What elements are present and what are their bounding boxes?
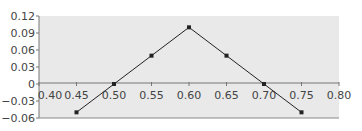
data-point-marker bbox=[75, 110, 79, 114]
data-point-marker bbox=[300, 110, 304, 114]
line-chart: 0.120.090.060.030−0.03−0.06 0.400.450.50… bbox=[0, 0, 362, 131]
x-tick-label: 0.75 bbox=[289, 89, 314, 102]
y-tick-label: −0.06 bbox=[1, 112, 35, 125]
y-tick-label: −0.03 bbox=[1, 95, 35, 108]
x-tick-label: 0.55 bbox=[139, 89, 164, 102]
x-tick-label: 0.45 bbox=[64, 89, 89, 102]
data-point-marker bbox=[262, 82, 266, 86]
y-axis-ticks: 0.120.090.060.030−0.03−0.06 bbox=[1, 10, 39, 125]
y-tick-label: 0.09 bbox=[11, 27, 36, 40]
y-tick-label: 0.12 bbox=[11, 10, 36, 23]
data-point-marker bbox=[187, 25, 191, 29]
data-point-marker bbox=[225, 54, 229, 58]
data-point-marker bbox=[150, 54, 154, 58]
y-tick-label: 0.03 bbox=[11, 61, 36, 74]
y-tick-label: 0.06 bbox=[11, 44, 36, 57]
x-tick-label: 0.40 bbox=[38, 89, 63, 102]
plot-area bbox=[39, 16, 339, 118]
x-tick-label: 0.80 bbox=[327, 89, 352, 102]
x-tick-label: 0.65 bbox=[214, 89, 239, 102]
y-tick-label: 0 bbox=[28, 78, 35, 91]
x-tick-label: 0.60 bbox=[177, 89, 202, 102]
data-point-marker bbox=[112, 82, 116, 86]
